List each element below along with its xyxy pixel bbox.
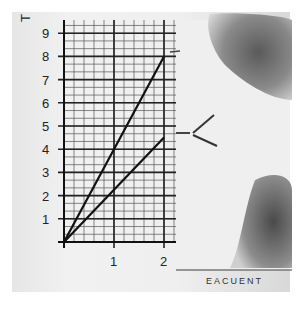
y-tick-label: 9 bbox=[42, 26, 49, 41]
y-tick-label: 1 bbox=[42, 212, 49, 227]
y-tick-label: 8 bbox=[42, 49, 49, 64]
photo-of-graph-paper: 12345678912T EACUENT bbox=[0, 0, 298, 311]
footer-text-fragment: EACUENT bbox=[206, 276, 263, 286]
y-tick-label: 2 bbox=[42, 189, 49, 204]
y-axis-label: T bbox=[18, 14, 33, 22]
y-tick-label: 4 bbox=[42, 142, 49, 157]
y-tick-label: 7 bbox=[42, 73, 49, 88]
x-tick-label: 2 bbox=[160, 254, 167, 269]
y-tick-label: 5 bbox=[42, 119, 49, 134]
x-tick-label: 1 bbox=[110, 254, 117, 269]
line-chart: 12345678912T bbox=[0, 0, 298, 311]
steep-line-end-tick bbox=[170, 51, 180, 52]
y-tick-label: 3 bbox=[42, 165, 49, 180]
grid bbox=[58, 20, 176, 248]
y-tick-label: 6 bbox=[42, 96, 49, 111]
